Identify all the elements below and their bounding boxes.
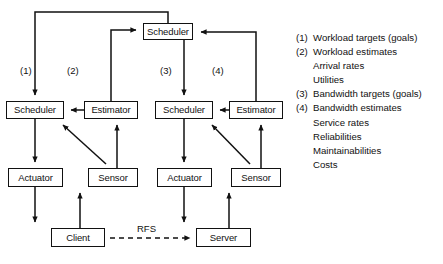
node-right-estimator[interactable]: Estimator xyxy=(229,101,283,119)
node-left-sensor[interactable]: Sensor xyxy=(88,168,138,187)
node-global-scheduler[interactable]: Scheduler xyxy=(143,23,193,40)
legend-row: (2) Workload estimates xyxy=(296,45,442,59)
legend-row: Utilities xyxy=(296,73,442,87)
connector-label-4: (4) xyxy=(212,66,224,76)
legend-text: Service rates xyxy=(313,116,442,130)
legend-row: Reliabilities xyxy=(296,130,442,144)
legend-text: Arrival rates xyxy=(313,59,442,73)
node-left-estimator[interactable]: Estimator xyxy=(84,101,138,119)
legend-row: Maintainabilities xyxy=(296,144,442,158)
legend-row: Service rates xyxy=(296,116,442,130)
node-server[interactable]: Server xyxy=(196,228,251,247)
legend-marker: (1) xyxy=(296,31,313,45)
legend-text: Utilities xyxy=(313,73,442,87)
legend: (1) Workload targets (goals) (2) Workloa… xyxy=(296,31,442,172)
connector-label-1: (1) xyxy=(20,66,32,76)
edge-right-estimator-to-global xyxy=(201,32,256,101)
connector-label-2: (2) xyxy=(67,66,79,76)
legend-text: Reliabilities xyxy=(313,130,442,144)
legend-row: Costs xyxy=(296,158,442,172)
node-client[interactable]: Client xyxy=(51,228,105,247)
legend-text: Bandwidth targets (goals) xyxy=(313,87,442,101)
diagram-root: Scheduler Scheduler Estimator Scheduler … xyxy=(0,0,443,264)
node-left-scheduler[interactable]: Scheduler xyxy=(6,101,64,119)
node-right-sensor[interactable]: Sensor xyxy=(231,168,281,187)
legend-row: (4) Bandwidth estimates xyxy=(296,101,442,115)
edge-left-estimator-to-global xyxy=(111,30,136,101)
node-left-actuator[interactable]: Actuator xyxy=(8,168,63,187)
legend-text: Bandwidth estimates xyxy=(313,101,442,115)
edge-right-sensor-to-right-scheduler xyxy=(212,125,250,164)
legend-text: Costs xyxy=(313,158,442,172)
legend-marker: (3) xyxy=(296,87,313,101)
legend-marker: (2) xyxy=(296,45,313,59)
edge-left-sensor-to-left-scheduler xyxy=(63,125,106,164)
edge-label-rfs: RFS xyxy=(136,224,157,234)
legend-row: (3) Bandwidth targets (goals) xyxy=(296,87,442,101)
legend-row: Arrival rates xyxy=(296,59,442,73)
node-right-actuator[interactable]: Actuator xyxy=(157,168,212,187)
legend-text: Maintainabilities xyxy=(313,144,442,158)
connector-label-3: (3) xyxy=(160,66,172,76)
legend-text: Workload estimates xyxy=(313,45,442,59)
node-right-scheduler[interactable]: Scheduler xyxy=(155,101,213,119)
legend-row: (1) Workload targets (goals) xyxy=(296,31,442,45)
legend-text: Workload targets (goals) xyxy=(313,31,442,45)
legend-marker: (4) xyxy=(296,101,313,115)
